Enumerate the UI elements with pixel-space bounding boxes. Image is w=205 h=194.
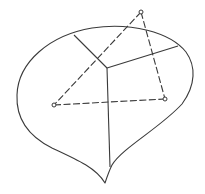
figure-caption	[2, 189, 202, 194]
edge-junction-down	[107, 68, 110, 167]
dashed-edge-top-left	[54, 12, 141, 105]
edge-junction-to-right	[107, 46, 178, 68]
vertex-left-marker	[52, 103, 56, 107]
surface-diagram	[0, 0, 205, 194]
vertex-right-marker	[163, 97, 167, 101]
dashed-edge-top-right	[141, 12, 165, 99]
dashed-edge-left-right	[54, 99, 165, 105]
edge-junction-to-upper-left	[74, 35, 107, 68]
vertex-top-marker	[139, 10, 143, 14]
